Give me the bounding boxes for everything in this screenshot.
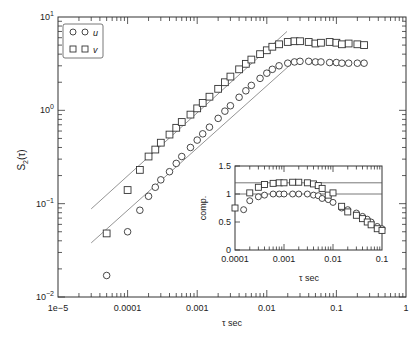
inset-y-tick-label: 0 (226, 245, 231, 255)
inset-data-point (255, 184, 261, 190)
inset-data-point (262, 181, 268, 187)
data-point (152, 146, 159, 153)
structure-function-chart: 1e−50.00010.0010.010.1110−210−1100101 uv… (0, 0, 419, 338)
data-point (354, 60, 361, 67)
inset-data-point (339, 203, 345, 209)
y-tick-label: 100 (40, 103, 54, 115)
inset-data-point (345, 209, 351, 215)
data-point (187, 144, 194, 151)
y-tick-label: 10−2 (36, 290, 54, 302)
data-point (136, 167, 143, 174)
data-point (157, 139, 164, 146)
data-point (194, 137, 201, 144)
data-point (103, 230, 110, 237)
data-point (187, 111, 194, 118)
data-point (236, 94, 243, 101)
data-point (248, 56, 255, 63)
inset-data-point (353, 212, 359, 218)
chart-canvas: 1e−50.00010.0010.010.1110−210−1100101 uv… (0, 0, 419, 338)
x-tick-label: 1 (403, 303, 408, 313)
inset-y-tick-label: 1.5 (218, 161, 231, 171)
y-axis-label: S2(τ) (16, 149, 29, 170)
data-point (158, 177, 165, 184)
data-point (206, 93, 213, 100)
data-point (361, 42, 368, 49)
data-point (276, 63, 283, 70)
x-axis-label: τ sec (222, 318, 243, 328)
data-point (166, 168, 173, 175)
data-point (284, 60, 291, 67)
inset-data-point (296, 191, 302, 197)
data-point (103, 272, 110, 279)
data-point (276, 41, 283, 48)
inset-data-point (330, 199, 336, 205)
inset-x-axis-label: τ sec (299, 273, 320, 283)
inset-data-point (247, 198, 253, 204)
data-point (227, 73, 234, 80)
data-point (339, 41, 346, 48)
inset-y-tick-label: 0.5 (218, 217, 231, 227)
inset-data-point (281, 180, 287, 186)
inset-plot: 0.00010.0010.010.100.511.5 (218, 161, 388, 264)
x-tick-label: 0.0001 (114, 303, 142, 313)
inset-data-point (296, 179, 302, 185)
inset-x-tick-label: 0.0001 (221, 254, 249, 264)
inset-data-point (247, 190, 253, 196)
inset-data-point (290, 179, 296, 185)
data-point (199, 131, 206, 138)
inset-x-tick-label: 0.001 (273, 254, 296, 264)
x-tick-label: 0.1 (330, 303, 343, 313)
inset-data-point (319, 195, 325, 201)
inset-data-point (368, 222, 374, 228)
data-point (236, 66, 243, 73)
legend-label: u (93, 28, 98, 38)
data-point (152, 184, 159, 191)
inset-data-point (232, 205, 238, 211)
inset-data-point (255, 194, 261, 200)
data-point (206, 124, 213, 131)
data-point (318, 39, 325, 46)
data-point (145, 153, 152, 160)
data-point (326, 39, 333, 46)
data-point (345, 60, 352, 67)
data-point (284, 39, 291, 46)
inset-data-point (270, 191, 276, 197)
data-point (297, 38, 304, 45)
y-tick-label: 101 (40, 10, 54, 22)
data-point (227, 102, 234, 109)
inset-y-tick-label: 1 (226, 189, 231, 199)
data-point (339, 60, 346, 67)
inset-data-point (270, 180, 276, 186)
inset-data-point (304, 180, 310, 186)
data-point (297, 58, 304, 65)
data-point (326, 59, 333, 66)
x-tick-label: 0.01 (258, 303, 276, 313)
data-point (269, 43, 276, 50)
data-point (361, 60, 368, 67)
legend-label: v (93, 45, 98, 55)
data-point (305, 58, 312, 65)
inset-data-point (330, 190, 336, 196)
legend-marker-circle (70, 29, 76, 35)
inset-y-axis-label: comp. (198, 196, 208, 221)
data-point (178, 153, 185, 160)
x-tick-label: 0.001 (186, 303, 209, 313)
data-point (178, 119, 185, 126)
inset-x-tick-label: 0.1 (376, 254, 389, 264)
data-point (173, 160, 180, 167)
data-point (166, 131, 173, 138)
data-point (269, 66, 276, 73)
legend-marker-square (82, 46, 88, 52)
data-point (354, 41, 361, 48)
data-point (215, 85, 222, 92)
data-point (345, 40, 352, 47)
data-point (124, 187, 131, 194)
data-point (257, 51, 264, 58)
data-point (257, 75, 264, 82)
y-tick-label: 10−1 (36, 197, 54, 209)
data-point (215, 115, 222, 122)
inset-x-tick-label: 0.01 (324, 254, 342, 264)
data-point (124, 228, 131, 235)
inset-data-point (241, 207, 247, 213)
data-point (222, 108, 229, 115)
